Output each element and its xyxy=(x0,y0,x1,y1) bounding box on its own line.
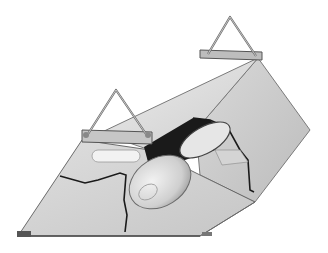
left-hanger-bolt-1 xyxy=(83,132,89,138)
reflector-illustration xyxy=(0,0,328,253)
hood-slot xyxy=(92,150,140,162)
top-hanger-bracket xyxy=(200,17,262,60)
left-bracket-plate xyxy=(82,130,152,144)
left-hanger-bolt-2 xyxy=(145,132,151,138)
hood-foot-left xyxy=(17,231,31,237)
hood-foot-right xyxy=(202,232,212,236)
